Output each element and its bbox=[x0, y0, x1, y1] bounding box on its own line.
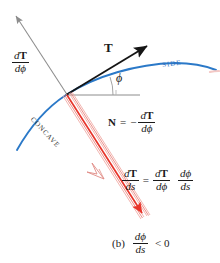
phi-symbol: ϕ bbox=[20, 62, 26, 74]
fraction-denominator: dϕ bbox=[138, 123, 155, 135]
angle-phi-arc bbox=[110, 77, 113, 95]
label-angle-phi: ϕ bbox=[116, 72, 122, 84]
edge-artifact bbox=[210, 71, 219, 72]
label-dT-dphi: dT dϕ bbox=[12, 50, 29, 74]
equation-row: dT ds = dT dϕ dϕ ds bbox=[122, 168, 193, 192]
phi-symbol: ϕ bbox=[161, 180, 167, 192]
fraction-dphi-ds: dϕ ds bbox=[178, 168, 193, 192]
vector-T: T bbox=[130, 167, 137, 179]
vector-T: T bbox=[20, 49, 27, 61]
fraction-denominator: dϕ bbox=[153, 181, 170, 193]
s-symbol: s bbox=[141, 243, 145, 255]
fraction-denominator: ds bbox=[133, 244, 148, 256]
s-symbol: s bbox=[186, 180, 190, 192]
fraction-dphi-ds: dϕ ds bbox=[133, 231, 148, 255]
fraction-dT-dphi: dT dϕ bbox=[12, 50, 29, 74]
equals-sign: = bbox=[118, 117, 128, 128]
equation-normal-vector: N = − dT dϕ bbox=[108, 110, 155, 134]
figure-caption: (b) dϕ ds < 0 bbox=[112, 231, 170, 255]
caption-relation: < 0 bbox=[155, 238, 169, 249]
fraction-dT-dphi: dT dϕ bbox=[138, 110, 155, 134]
caption-row: (b) dϕ ds < 0 bbox=[112, 231, 170, 255]
fraction-dT-dphi: dT dϕ bbox=[153, 168, 170, 192]
phi-symbol: ϕ bbox=[185, 167, 191, 179]
fraction-denominator: ds bbox=[122, 181, 139, 193]
caption-prefix: (b) bbox=[112, 238, 125, 249]
minus-sign: − bbox=[130, 117, 136, 128]
vector-T: T bbox=[161, 167, 168, 179]
vector-calculus-figure: dT dϕ T ϕ SIDE CONCAVE N = − dT dϕ dT ds… bbox=[0, 0, 220, 263]
equation-chain-rule: dT ds = dT dϕ dϕ ds bbox=[122, 168, 193, 192]
fraction-denominator: dϕ bbox=[12, 63, 29, 75]
hollow-arrowhead bbox=[87, 163, 104, 179]
fraction-dT-ds: dT ds bbox=[122, 168, 139, 192]
equation-row: N = − dT dϕ bbox=[108, 110, 155, 134]
phi-symbol: ϕ bbox=[140, 230, 146, 242]
label-tangent-vector-T: T bbox=[104, 41, 113, 54]
vector-T: T bbox=[146, 109, 153, 121]
vector-N: N bbox=[108, 117, 116, 128]
equals-sign: = bbox=[141, 175, 151, 186]
s-symbol: s bbox=[131, 180, 135, 192]
phi-symbol: ϕ bbox=[147, 122, 153, 134]
fraction-denominator: ds bbox=[178, 181, 193, 193]
